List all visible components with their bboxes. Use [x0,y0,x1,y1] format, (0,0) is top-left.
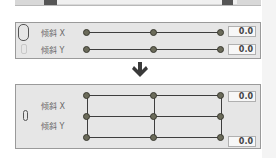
slider-knob[interactable] [150,46,157,53]
slider-knob[interactable] [217,46,224,53]
grid-knob[interactable] [217,113,224,120]
arrow-down-icon [132,62,148,77]
skew-x-input[interactable]: 0.0 [228,26,256,37]
skew-y-label: 倾斜 Y [41,120,64,131]
skew-y-input[interactable]: 0.0 [228,44,256,55]
grid-knob[interactable] [217,92,224,99]
grid-knob[interactable] [83,134,90,141]
link-toggle-button[interactable] [18,24,29,41]
skew-panel-unlinked: 倾斜 X 倾斜 Y 0.0 0.0 [15,22,261,59]
grid-knob[interactable] [150,92,157,99]
skew-y-input[interactable]: 0.0 [228,136,256,147]
skew-y-label: 倾斜 Y [41,44,64,55]
grid-knob[interactable] [150,134,157,141]
grid-knob[interactable] [217,134,224,141]
left-handle[interactable] [44,0,57,5]
grid-knob[interactable] [83,92,90,99]
page-edge [262,0,276,158]
slider-knob[interactable] [83,46,90,53]
link-toggle-button[interactable] [23,110,28,121]
grid-knob[interactable] [150,113,157,120]
skew-x-input[interactable]: 0.0 [228,91,256,102]
slider-knob[interactable] [217,29,224,36]
skew-panel-linked: 倾斜 X 倾斜 Y 0.0 0.0 [15,84,261,149]
slider-knob[interactable] [83,29,90,36]
grid-knob[interactable] [83,113,90,120]
skew-x-label: 倾斜 X [41,100,65,111]
slider-knob[interactable] [150,29,157,36]
previous-panel-edge [15,0,261,6]
right-handle[interactable] [222,0,233,5]
unlink-icon [21,44,27,54]
skew-x-label: 倾斜 X [41,27,65,38]
